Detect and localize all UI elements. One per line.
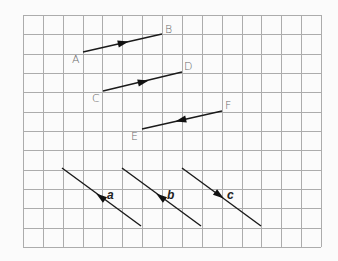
point-label-a: A — [72, 53, 80, 66]
vector-label-c: c — [227, 188, 234, 202]
point-label-b: B — [165, 23, 172, 36]
point-label-d: D — [184, 60, 192, 73]
vector-b: b — [122, 168, 201, 226]
point-label-f: F — [225, 99, 231, 112]
vector-grid-diagram: A B C D E F a b c — [0, 0, 338, 261]
vector-label-b: b — [167, 188, 174, 202]
vector-ef: E F — [131, 99, 231, 143]
point-label-e: E — [131, 130, 138, 143]
arrowhead-icon — [174, 116, 186, 125]
vector-label-a: a — [107, 188, 114, 202]
arrowhead-icon — [117, 38, 129, 47]
point-label-c: C — [92, 92, 100, 105]
vector-c: c — [182, 168, 261, 226]
arrowhead-icon — [137, 77, 149, 86]
vector-a: a — [62, 168, 141, 226]
square-grid — [23, 15, 322, 248]
